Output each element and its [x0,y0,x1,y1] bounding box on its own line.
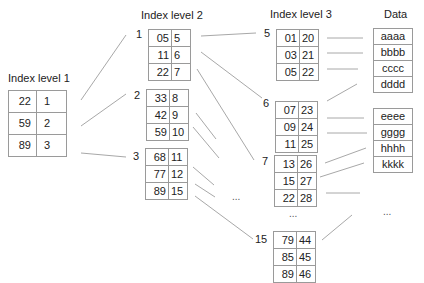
key-cell: 89 [9,135,37,157]
key-cell: 07 [276,102,299,119]
data-cell: cccc [374,61,413,77]
ellipsis: ... [289,208,297,219]
key-cell: 22 [9,91,37,113]
block-label: 7 [262,155,268,167]
key-cell: 89 [146,183,169,200]
table-row: 89 3 [9,135,67,157]
key-cell: 03 [277,47,300,64]
pointer-cell: 5 [172,30,191,47]
pointer-cell: 22 [300,64,319,81]
key-cell: 33 [147,90,170,107]
table-row: 227 [149,64,191,81]
data-cell: gggg [374,125,413,141]
index-level-2-title: Index level 2 [141,9,203,21]
table-row: 1125 [276,136,318,153]
table-row: 6811 [146,149,188,166]
table-row: gggg [374,125,413,141]
pointer-cell: 45 [297,249,316,266]
data-cell: aaaa [374,29,413,45]
block-label: 15 [255,233,267,245]
table-row: hhhh [374,141,413,157]
ellipsis: ... [383,206,391,217]
pointer-cell: 1 [37,91,67,113]
pointer-cell: 24 [299,119,318,136]
key-cell: 79 [274,232,297,249]
table-row: 8946 [274,266,316,283]
index-level-2-block: 6811 7712 8915 [145,148,188,200]
table-row: 0924 [276,119,318,136]
ellipsis: ... [232,191,240,202]
key-cell: 68 [146,149,169,166]
table-row: 116 [149,47,191,64]
key-cell: 11 [149,47,172,64]
key-cell: 13 [275,156,298,173]
pointer-cell: 6 [172,47,191,64]
table-row: cccc [374,61,413,77]
table-row: 0321 [277,47,319,64]
data-cell: dddd [374,77,413,93]
key-cell: 59 [9,113,37,135]
index-level-2-block: 338 429 5910 [146,89,189,141]
index-level-3-block: 0723 0924 1125 [275,101,318,153]
pointer-cell: 2 [37,113,67,135]
pointer-cell: 44 [297,232,316,249]
index-level-1-table: 22 1 59 2 89 3 [8,90,67,157]
data-cell: eeee [374,109,413,125]
pointer-cell: 15 [169,183,188,200]
pointer-cell: 10 [170,124,189,141]
key-cell: 22 [275,190,298,207]
data-title: Data [384,8,407,20]
key-cell: 01 [277,30,300,47]
pointer-cell: 9 [170,107,189,124]
table-row: 0120 [277,30,319,47]
table-row: 5910 [147,124,189,141]
table-row: bbbb [374,45,413,61]
pointer-cell: 46 [297,266,316,283]
pointer-cell: 21 [300,47,319,64]
pointer-cell: 28 [298,190,317,207]
table-row: 1527 [275,173,317,190]
block-label: 1 [136,28,142,40]
pointer-cell: 25 [299,136,318,153]
key-cell: 22 [149,64,172,81]
key-cell: 42 [147,107,170,124]
index-level-3-block: 7944 8545 8946 [273,231,316,283]
table-row: dddd [374,77,413,93]
table-row: 055 [149,30,191,47]
pointer-cell: 3 [37,135,67,157]
pointer-cell: 7 [172,64,191,81]
index-level-3-block: 0120 0321 0522 [276,29,319,81]
block-label: 2 [134,89,140,101]
table-row: 7712 [146,166,188,183]
table-row: 8545 [274,249,316,266]
block-label: 3 [133,150,139,162]
data-cell: bbbb [374,45,413,61]
key-cell: 05 [277,64,300,81]
pointer-cell: 26 [298,156,317,173]
key-cell: 85 [274,249,297,266]
data-cell: hhhh [374,141,413,157]
table-row: 7944 [274,232,316,249]
data-cell: kkkk [374,157,413,173]
table-row: eeee [374,109,413,125]
key-cell: 11 [276,136,299,153]
key-cell: 05 [149,30,172,47]
table-row: 429 [147,107,189,124]
pointer-cell: 12 [169,166,188,183]
table-row: 22 1 [9,91,67,113]
key-cell: 89 [274,266,297,283]
table-row: 8915 [146,183,188,200]
table-row: 59 2 [9,113,67,135]
table-row: 1326 [275,156,317,173]
table-row: aaaa [374,29,413,45]
index-level-1-title: Index level 1 [8,72,70,84]
key-cell: 77 [146,166,169,183]
table-row: 338 [147,90,189,107]
pointer-cell: 11 [169,149,188,166]
key-cell: 15 [275,173,298,190]
pointer-cell: 20 [300,30,319,47]
pointer-cell: 23 [299,102,318,119]
table-row: kkkk [374,157,413,173]
pointer-cell: 8 [170,90,189,107]
block-label: 5 [264,27,270,39]
